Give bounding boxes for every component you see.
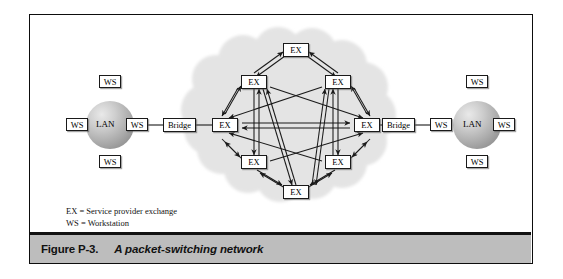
figure-screenshot: LAN WS WS WS WS Bridge EX EX EX EX EX EX…: [0, 0, 563, 279]
legend-line-ex: EX = Service provider exchange: [66, 205, 177, 217]
ex-lower-left[interactable]: EX: [241, 155, 267, 169]
ex-upper-left[interactable]: EX: [241, 75, 267, 89]
left-lan-label: LAN: [96, 119, 115, 129]
ex-upper-right[interactable]: EX: [325, 75, 351, 89]
ex-top[interactable]: EX: [283, 43, 309, 57]
left-ws-top[interactable]: WS: [99, 75, 121, 88]
left-ws-right[interactable]: WS: [126, 118, 148, 131]
right-ws-right[interactable]: WS: [493, 118, 515, 131]
right-ws-top[interactable]: WS: [466, 75, 488, 88]
diagram-canvas: LAN WS WS WS WS Bridge EX EX EX EX EX EX…: [30, 15, 531, 230]
left-bridge[interactable]: Bridge: [163, 118, 196, 132]
ex-right[interactable]: EX: [354, 118, 380, 132]
figure-title: A packet-switching network: [114, 243, 263, 255]
left-ws-bottom[interactable]: WS: [99, 155, 121, 168]
right-ws-bottom[interactable]: WS: [466, 155, 488, 168]
ex-bottom[interactable]: EX: [283, 185, 309, 199]
right-ws-left[interactable]: WS: [430, 118, 452, 131]
figure-caption-bar: Figure P-3. A packet-switching network: [30, 232, 531, 263]
right-lan-label: LAN: [463, 119, 482, 129]
figure-number: Figure P-3.: [41, 243, 98, 255]
right-bridge[interactable]: Bridge: [382, 118, 415, 132]
legend: EX = Service provider exchange WS = Work…: [66, 205, 177, 229]
left-ws-left[interactable]: WS: [66, 118, 88, 131]
legend-line-ws: WS = Workstation: [66, 217, 177, 229]
ex-left[interactable]: EX: [212, 118, 238, 132]
ex-lower-right[interactable]: EX: [325, 155, 351, 169]
figure-frame: LAN WS WS WS WS Bridge EX EX EX EX EX EX…: [29, 14, 533, 264]
